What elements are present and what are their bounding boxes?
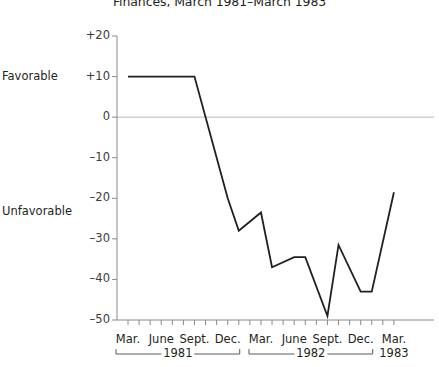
year-label: 1982 xyxy=(294,346,327,360)
axis-side-label: Unfavorable xyxy=(2,204,72,218)
chart-figure: Finances, March 1981–March 1983 +20+100–… xyxy=(0,0,439,367)
x-tick-label: Mar. xyxy=(249,332,273,346)
x-tick-label: Mar. xyxy=(116,332,140,346)
x-tick-label: Dec. xyxy=(348,332,374,346)
y-tick-label: +10 xyxy=(60,69,110,83)
year-brackets xyxy=(116,349,406,354)
x-tick-label: Sept. xyxy=(180,332,210,346)
y-tick-label: –10 xyxy=(60,150,110,164)
y-tick-label: +20 xyxy=(60,28,110,42)
y-tick-label: –50 xyxy=(60,312,110,326)
y-tick-label: 0 xyxy=(60,109,110,123)
year-label: 1983 xyxy=(377,346,410,360)
x-tick-label: Mar. xyxy=(382,332,406,346)
y-axis-ticks xyxy=(112,36,117,320)
x-tick-label: June xyxy=(149,332,174,346)
x-tick-label: Sept. xyxy=(313,332,343,346)
axis-side-label: Favorable xyxy=(2,69,58,83)
y-tick-label: –20 xyxy=(60,190,110,204)
x-tick-label: Dec. xyxy=(215,332,241,346)
chart-axes xyxy=(117,36,434,320)
x-axis-ticks xyxy=(128,320,394,325)
y-tick-label: –40 xyxy=(60,271,110,285)
x-tick-label: June xyxy=(282,332,307,346)
data-series xyxy=(128,77,394,316)
y-tick-label: –30 xyxy=(60,231,110,245)
year-label: 1981 xyxy=(161,346,194,360)
